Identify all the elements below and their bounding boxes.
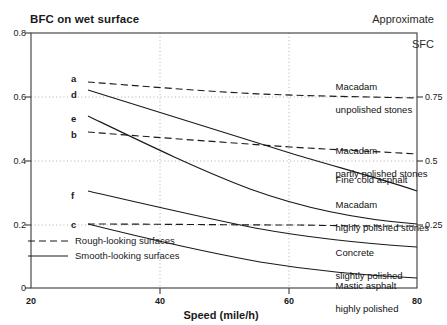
annotation-line2: highly polished stones: [336, 222, 429, 233]
legend-label-rough: Rough-looking surfaces: [75, 236, 175, 247]
annotation-line1: Macadam: [336, 199, 378, 210]
annotation-line1: Fine cold asphalt: [336, 174, 408, 185]
y-tick-0.2: 0.2: [0, 220, 26, 230]
x-tick-20: 20: [16, 296, 46, 306]
annotation-line2: unpolished stones: [336, 104, 413, 115]
right-tick-0.5: 0.5: [425, 156, 447, 166]
x-tick-80: 80: [402, 296, 432, 306]
legend-lines: [28, 241, 68, 256]
curve-key-a: a: [71, 74, 76, 85]
curve-key-b: b: [71, 130, 77, 141]
curve-key-f: f: [71, 191, 74, 202]
curve-key-c: c: [71, 220, 76, 231]
y-tick-0.4: 0.4: [0, 156, 26, 166]
curve-key-d: d: [71, 90, 77, 101]
right-tick-0.75: 0.75: [425, 92, 447, 102]
curve-key-e: e: [71, 114, 76, 125]
x-tick-60: 60: [274, 296, 304, 306]
annotation-macadam-unpolished: Macadam unpolished stones: [325, 70, 412, 127]
x-tick-40: 40: [145, 296, 175, 306]
annotation-line1: Concrete: [336, 247, 375, 258]
y-tick-0.6: 0.6: [0, 92, 26, 102]
y-tick-0.8: 0.8: [0, 28, 26, 38]
annotation-line1: Mastic asphalt: [336, 280, 397, 291]
annotation-line1: Macadam: [336, 81, 378, 92]
x-axis-label: Speed (mile/h): [0, 309, 442, 321]
annotation-line1: Macadam: [336, 145, 378, 156]
legend-label-smooth: Smooth-looking surfaces: [75, 251, 180, 262]
y-tick-0: 0: [0, 283, 26, 293]
